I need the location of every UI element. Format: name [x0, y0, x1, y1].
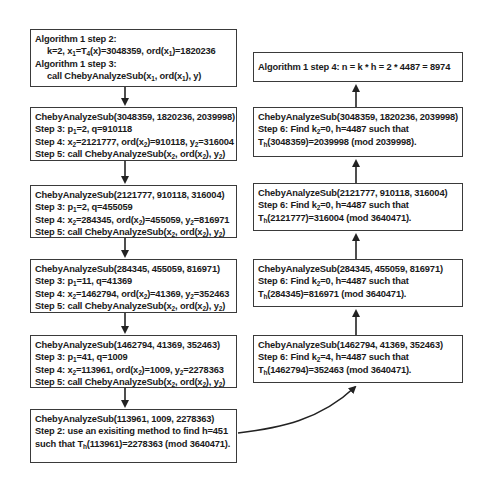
box-text-line: call ChebyAnalyzeSub(x1, ord(x1), y): [35, 70, 232, 82]
box-text-line: Step 3: p1=11, q=41369: [35, 275, 232, 287]
right-box-alg-step-4: Algorithm 1 step 4: n = k * h = 2 * 4487…: [253, 52, 463, 82]
right-box-ret-284345: ChebyAnalyzeSub(284345, 455059, 816971)S…: [253, 259, 463, 307]
box-text-line: Algorithm 1 step 2:: [35, 33, 232, 45]
box-text-line: ChebyAnalyzeSub(1462794, 41369, 352463): [258, 339, 458, 351]
box-text-line: Step 6: Find k2=0, h=4487 such that: [258, 123, 458, 135]
box-text-line: ChebyAnalyzeSub(1462794, 41369, 352463): [35, 339, 232, 351]
box-text-line: Step 2: use an exisiting method to find …: [35, 425, 232, 437]
box-text-line: Step 6: Find k2=0, h=4487 such that: [258, 275, 458, 287]
box-text-line: k=2, x1=T4(x)=3048359, ord(x1)=1820236: [35, 45, 232, 57]
box-text-line: ChebyAnalyzeSub(284345, 455059, 816971): [35, 263, 232, 275]
box-text-line: Step 5: call ChebyAnalyzeSub(x2, ord(x2)…: [35, 376, 232, 388]
right-box-ret-2121777: ChebyAnalyzeSub(2121777, 910118, 316004)…: [253, 183, 463, 231]
box-text-line: Step 4: x2=113961, ord(x2)=1009, y2=2278…: [35, 364, 232, 376]
box-text-line: ChebyAnalyzeSub(2121777, 910118, 316004): [258, 187, 458, 199]
right-box-ret-1462794: ChebyAnalyzeSub(1462794, 41369, 352463)S…: [253, 335, 463, 383]
box-text-line: ChebyAnalyzeSub(113961, 1009, 2278363): [35, 413, 232, 425]
box-text-line: Step 3: p1=41, q=1009: [35, 351, 232, 363]
left-box-sub-284345: ChebyAnalyzeSub(284345, 455059, 816971)S…: [30, 259, 237, 313]
arrow-curve: [238, 387, 355, 433]
left-box-sub-1462794: ChebyAnalyzeSub(1462794, 41369, 352463)S…: [30, 335, 237, 388]
box-text-line: ChebyAnalyzeSub(284345, 455059, 816971): [258, 263, 458, 275]
box-text-line: ChebyAnalyzeSub(2121777, 910118, 316004): [35, 189, 232, 201]
box-text-line: Step 5: call ChebyAnalyzeSub(x2, ord(x2)…: [35, 226, 232, 238]
box-text-line: Step 4: x2=1462794, ord(x2)=41369, y2=35…: [35, 288, 232, 300]
box-text-line: Step 5: call ChebyAnalyzeSub(x2, ord(x2)…: [35, 300, 232, 312]
box-text-line: Step 4: x2=2121777, ord(x2)=910118, y2=3…: [35, 136, 232, 148]
box-text-line: Th(1462794)=352463 (mod 3640471).: [258, 364, 458, 376]
box-text-line: ChebyAnalyzeSub(3048359, 1820236, 203999…: [258, 111, 458, 123]
box-text-line: Th(3048359)=2039998 (mod 2039998).: [258, 136, 458, 148]
left-box-alg-step-2-3: Algorithm 1 step 2:k=2, x1=T4(x)=3048359…: [30, 29, 237, 87]
box-text-line: ChebyAnalyzeSub(3048359, 1820236, 203999…: [35, 111, 232, 123]
box-text-line: Step 3: p1=2, q=455059: [35, 201, 232, 213]
left-box-sub-113961: ChebyAnalyzeSub(113961, 1009, 2278363)St…: [30, 409, 237, 463]
box-text-line: Algorithm 1 step 3:: [35, 58, 232, 70]
box-text-line: Step 4: x2=284345, ord(x2)=455059, y2=81…: [35, 214, 232, 226]
box-text-line: Th(2121777)=316004 (mod 3640471).: [258, 212, 458, 224]
box-text-line: Th(284345)=816971 (mod 3640471).: [258, 288, 458, 300]
box-text-line: Algorithm 1 step 4: n = k * h = 2 * 4487…: [258, 61, 458, 73]
box-text-line: Step 3: p1=2, q=910118: [35, 123, 232, 135]
box-text-line: Step 6: Find k2=0, h=4487 such that: [258, 199, 458, 211]
left-box-sub-2121777: ChebyAnalyzeSub(2121777, 910118, 316004)…: [30, 185, 237, 238]
right-box-ret-3048359: ChebyAnalyzeSub(3048359, 1820236, 203999…: [253, 107, 463, 157]
box-text-line: such that Th(113961)=2278363 (mod 364047…: [35, 438, 232, 450]
left-box-sub-3048359: ChebyAnalyzeSub(3048359, 1820236, 203999…: [30, 107, 237, 161]
box-text-line: Step 5: call ChebyAnalyzeSub(x2, ord(x2)…: [35, 148, 232, 160]
box-text-line: Step 6: Find k2=4, h=4487 such that: [258, 351, 458, 363]
